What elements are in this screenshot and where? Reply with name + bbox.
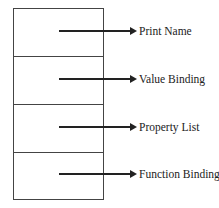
- label-function-binding: Function Binding: [139, 168, 219, 180]
- label-value-binding: Value Binding: [139, 73, 205, 85]
- divider-3: [13, 152, 104, 153]
- arrow-value-binding: [59, 78, 131, 80]
- arrow-print-name: [59, 30, 131, 32]
- divider-1: [13, 56, 104, 57]
- divider-2: [13, 104, 104, 105]
- arrow-function-binding: [59, 173, 131, 175]
- label-property-list: Property List: [139, 121, 199, 133]
- label-print-name: Print Name: [139, 25, 192, 37]
- arrow-property-list: [59, 126, 131, 128]
